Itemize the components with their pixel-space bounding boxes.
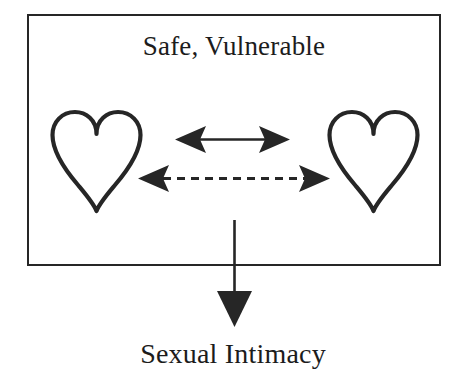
outcome-label: Sexual Intimacy — [0, 337, 466, 371]
box-title: Safe, Vulnerable — [27, 30, 441, 62]
arrowhead-down — [217, 291, 252, 327]
diagram-root: Safe, Vulnerable — [0, 0, 466, 387]
